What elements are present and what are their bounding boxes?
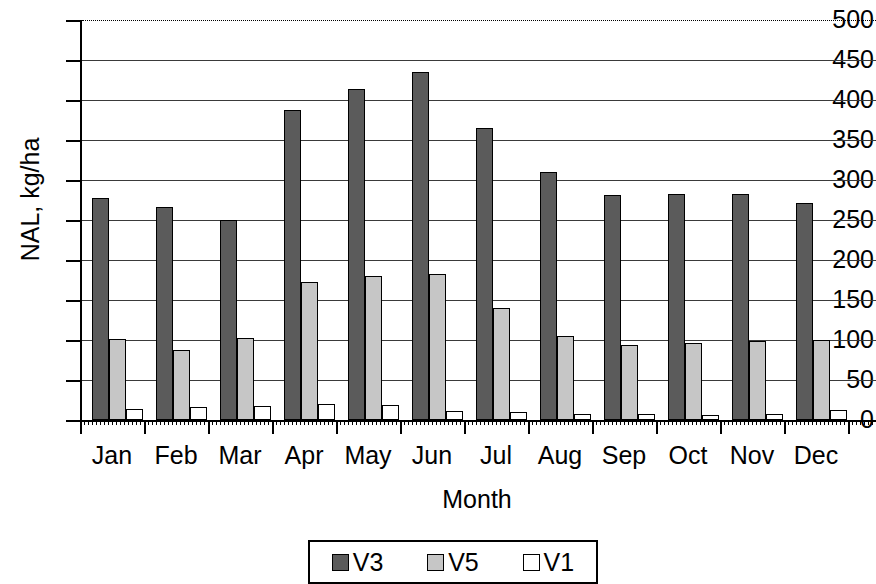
bar-v5-jul <box>493 308 510 420</box>
y-axis-tick-mark <box>66 260 80 262</box>
x-axis-tick-mark <box>848 420 850 434</box>
x-axis-tick-mark <box>336 420 338 434</box>
bar-v5-jun <box>429 274 446 420</box>
legend-swatch-v1 <box>523 554 540 571</box>
bar-v3-oct <box>668 194 685 420</box>
x-axis-tick-label-may: May <box>335 440 401 470</box>
bar-v5-apr <box>301 282 318 420</box>
bar-group <box>732 20 783 420</box>
bar-v3-jul <box>476 128 493 420</box>
y-axis-tick-mark <box>66 380 80 382</box>
bar-v3-dec <box>796 203 813 420</box>
bar-v3-nov <box>732 194 749 420</box>
bar-group <box>668 20 719 420</box>
bar-v5-aug <box>557 336 574 420</box>
x-axis-tick-label-mar: Mar <box>207 440 273 470</box>
legend-label: V3 <box>353 550 384 575</box>
bar-v5-dec <box>813 340 830 420</box>
bar-v5-mar <box>237 338 254 420</box>
bar-v1-mar <box>254 406 271 420</box>
bar-v3-sep <box>604 195 621 420</box>
chart-legend: V3V5V1 <box>308 540 598 584</box>
x-axis-tick-mark <box>208 420 210 434</box>
x-axis-tick-label-dec: Dec <box>783 440 849 470</box>
x-axis-minor-ticks <box>80 420 874 425</box>
bar-group <box>604 20 655 420</box>
bar-group <box>412 20 463 420</box>
bar-v5-nov <box>749 341 766 420</box>
x-axis-tick-mark <box>144 420 146 434</box>
y-axis-tick-mark <box>66 420 80 422</box>
bar-v3-may <box>348 89 365 420</box>
bar-v1-jan <box>126 409 143 420</box>
bar-group <box>796 20 847 420</box>
bar-v3-jan <box>92 198 109 420</box>
x-axis-tick-label-nov: Nov <box>719 440 785 470</box>
x-axis-tick-label-sep: Sep <box>591 440 657 470</box>
x-axis-tick-label-feb: Feb <box>143 440 209 470</box>
bar-group <box>284 20 335 420</box>
bar-v5-feb <box>173 350 190 420</box>
x-axis-tick-mark <box>400 420 402 434</box>
bar-group <box>220 20 271 420</box>
bar-group <box>156 20 207 420</box>
bar-v1-may <box>382 405 399 420</box>
x-axis-tick-mark <box>784 420 786 434</box>
bar-group <box>348 20 399 420</box>
y-axis-tick-mark <box>66 340 80 342</box>
x-axis-tick-label-jun: Jun <box>399 440 465 470</box>
bar-v5-sep <box>621 345 638 420</box>
bar-v3-mar <box>220 220 237 420</box>
bar-v5-may <box>365 276 382 420</box>
legend-item-v5: V5 <box>427 550 479 575</box>
y-axis-tick-mark <box>66 140 80 142</box>
x-axis-tick-label-apr: Apr <box>271 440 337 470</box>
bar-v1-jun <box>446 411 463 420</box>
x-axis-tick-mark <box>528 420 530 434</box>
y-axis-tick-mark <box>66 100 80 102</box>
x-axis-title: Month <box>80 485 874 514</box>
x-axis-tick-mark <box>720 420 722 434</box>
bar-v3-apr <box>284 110 301 420</box>
plot-area <box>80 20 876 420</box>
bar-group <box>92 20 143 420</box>
x-axis-tick-mark <box>656 420 658 434</box>
x-axis-tick-mark <box>80 420 82 434</box>
x-axis-tick-label-jan: Jan <box>79 440 145 470</box>
legend-swatch-v3 <box>332 554 349 571</box>
legend-label: V5 <box>448 550 479 575</box>
x-axis-tick-mark <box>464 420 466 434</box>
x-axis-tick-labels: JanFebMarAprMayJunJulAugSepOctNovDec <box>80 440 874 474</box>
y-axis-tick-mark <box>66 300 80 302</box>
x-axis-tick-label-aug: Aug <box>527 440 593 470</box>
x-axis-tick-label-jul: Jul <box>463 440 529 470</box>
x-axis-tick-mark <box>272 420 274 434</box>
x-axis-tick-label-oct: Oct <box>655 440 721 470</box>
bar-v3-jun <box>412 72 429 420</box>
legend-item-v1: V1 <box>523 550 575 575</box>
bar-v1-jul <box>510 412 527 420</box>
bar-v5-oct <box>685 343 702 420</box>
x-axis-ticks <box>80 420 874 434</box>
bar-v5-jan <box>109 339 126 420</box>
legend-label: V1 <box>544 550 575 575</box>
bar-group <box>540 20 591 420</box>
y-axis-tick-mark <box>66 20 80 22</box>
legend-item-v3: V3 <box>332 550 384 575</box>
bar-v1-feb <box>190 407 207 420</box>
y-axis-tick-mark <box>66 220 80 222</box>
y-axis-tick-mark <box>66 60 80 62</box>
legend-swatch-v5 <box>427 554 444 571</box>
bar-v1-dec <box>830 410 847 420</box>
x-axis-tick-mark <box>592 420 594 434</box>
bar-v1-apr <box>318 404 335 420</box>
bar-v3-aug <box>540 172 557 420</box>
bar-group <box>476 20 527 420</box>
bar-v3-feb <box>156 207 173 420</box>
y-axis-title: NAL, kg/ha <box>16 100 45 300</box>
y-axis-tick-mark <box>66 180 80 182</box>
